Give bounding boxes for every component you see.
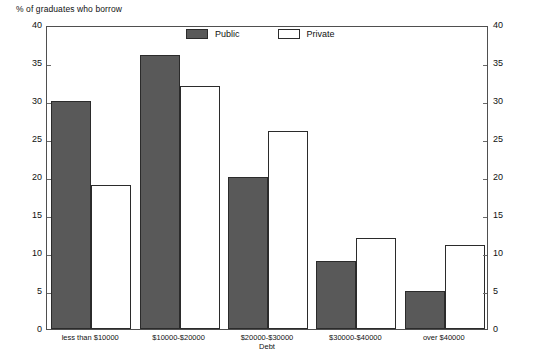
y-tick-label-right: 30 xyxy=(493,97,523,106)
y-tick-mark-right xyxy=(483,255,487,256)
y-tick-label-right: 40 xyxy=(493,21,523,30)
legend: Public Private xyxy=(186,29,335,39)
y-tick-mark-left xyxy=(47,217,51,218)
x-tick-label: less than $10000 xyxy=(46,333,134,342)
legend-swatch-private-icon xyxy=(278,29,300,39)
bar-private-2 xyxy=(268,131,308,329)
y-tick-label-right: 10 xyxy=(493,249,523,258)
bar-private-4 xyxy=(445,245,485,329)
legend-label-private: Private xyxy=(307,29,335,39)
y-tick-mark-right xyxy=(483,217,487,218)
y-tick-mark-right xyxy=(483,65,487,66)
y-tick-label-left: 15 xyxy=(18,211,42,220)
y-tick-label-left: 25 xyxy=(18,135,42,144)
y-tick-mark-right xyxy=(483,141,487,142)
x-axis-title: Debt xyxy=(46,342,488,351)
y-tick-label-left: 20 xyxy=(18,173,42,182)
x-tick-label: $30000-$40000 xyxy=(311,333,399,342)
y-tick-label-left: 5 xyxy=(18,287,42,296)
y-tick-label-left: 30 xyxy=(18,97,42,106)
bars-layer xyxy=(47,27,487,329)
y-tick-label-right: 35 xyxy=(493,59,523,68)
x-tick-label: over $40000 xyxy=(400,333,488,342)
bar-public-3 xyxy=(316,261,356,329)
y-tick-label-right: 25 xyxy=(493,135,523,144)
legend-label-public: Public xyxy=(215,29,240,39)
y-tick-mark-left xyxy=(47,293,51,294)
y-tick-mark-left xyxy=(47,141,51,142)
y-tick-label-right: 15 xyxy=(493,211,523,220)
y-tick-mark-right xyxy=(483,103,487,104)
y-tick-mark-left xyxy=(47,103,51,104)
bar-private-0 xyxy=(91,185,131,329)
legend-swatch-public-icon xyxy=(186,29,208,39)
bar-public-4 xyxy=(405,291,445,329)
x-tick-label: $20000-$30000 xyxy=(223,333,311,342)
x-tick-label: $10000-$20000 xyxy=(134,333,222,342)
y-tick-mark-left xyxy=(47,65,51,66)
plot-area xyxy=(46,26,488,330)
y-axis-right-ticks: 0510152025303540 xyxy=(493,26,523,330)
y-tick-mark-left xyxy=(47,179,51,180)
y-tick-mark-left xyxy=(47,255,51,256)
bar-public-0 xyxy=(51,101,91,329)
bar-public-2 xyxy=(228,177,268,329)
bar-private-1 xyxy=(180,86,220,329)
y-tick-label-left: 10 xyxy=(18,249,42,258)
y-tick-mark-right xyxy=(483,179,487,180)
bar-chart: % of graduates who borrow 05101520253035… xyxy=(0,0,533,362)
y-axis-left-ticks: 0510152025303540 xyxy=(18,26,42,330)
y-tick-label-left: 0 xyxy=(18,325,42,334)
y-tick-label-right: 0 xyxy=(493,325,523,334)
y-tick-label-left: 35 xyxy=(18,59,42,68)
bar-private-3 xyxy=(356,238,396,329)
y-tick-label-right: 20 xyxy=(493,173,523,182)
y-axis-title: % of graduates who borrow xyxy=(16,4,122,14)
y-tick-label-left: 40 xyxy=(18,21,42,30)
y-tick-mark-right xyxy=(483,293,487,294)
y-tick-label-right: 5 xyxy=(493,287,523,296)
legend-entry-private: Private xyxy=(278,29,335,39)
legend-entry-public: Public xyxy=(186,29,240,39)
bar-public-1 xyxy=(140,55,180,329)
